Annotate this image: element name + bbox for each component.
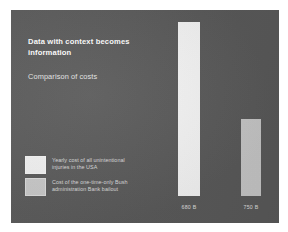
slide-frame: Data with context becomes information Co… <box>0 0 288 232</box>
bar-series-0 <box>178 22 200 196</box>
bar-value-label-1: 750 B <box>228 204 274 210</box>
bar-chart: 680 B 750 B <box>11 10 279 223</box>
presentation-slide: Data with context becomes information Co… <box>11 10 279 223</box>
bar-value-label-0: 680 B <box>166 204 212 210</box>
bar-series-1 <box>241 119 261 196</box>
